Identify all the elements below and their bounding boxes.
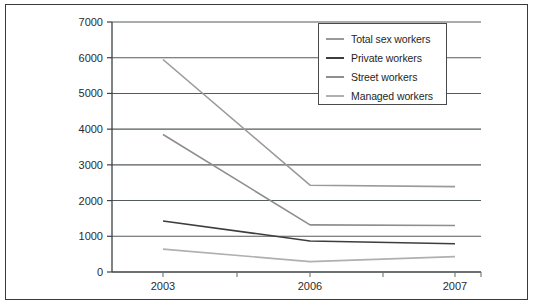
y-tick-group [107, 22, 112, 272]
legend-item-label: Private workers [351, 52, 422, 64]
y-tick-label: 3000 [79, 159, 103, 171]
legend-item[interactable]: Street workers [326, 67, 439, 86]
legend-item-label: Total sex workers [351, 33, 430, 45]
y-axis-labels: 01000200030004000500060007000 [79, 16, 103, 278]
y-tick-label: 1000 [79, 230, 103, 242]
y-tick-label: 5000 [79, 87, 103, 99]
y-tick-label: 0 [97, 266, 103, 278]
legend-item-label: Managed workers [351, 90, 433, 102]
line-chart-svg: 01000200030004000500060007000 2003200620… [0, 0, 533, 305]
y-tick-label: 7000 [79, 16, 103, 28]
x-tick-label: 2003 [151, 280, 175, 292]
series-line [163, 249, 455, 262]
x-axis-labels: 200320062007 [151, 280, 467, 292]
legend-line-icon [326, 38, 344, 40]
chart-figure: 01000200030004000500060007000 2003200620… [0, 0, 533, 305]
x-tick-label: 2006 [298, 280, 322, 292]
chart-legend: Total sex workers Private workers Street… [318, 23, 447, 105]
legend-line-icon [326, 57, 344, 59]
y-tick-label: 6000 [79, 52, 103, 64]
legend-item-label: Street workers [351, 71, 417, 83]
legend-line-icon [326, 76, 344, 78]
plot-area: 01000200030004000500060007000 2003200620… [0, 0, 533, 305]
x-tick-label: 2007 [443, 280, 467, 292]
x-tick-group [163, 272, 481, 277]
legend-item[interactable]: Total sex workers [326, 29, 439, 48]
series-line [163, 135, 455, 226]
y-tick-label: 2000 [79, 195, 103, 207]
legend-line-icon [326, 95, 344, 97]
legend-item[interactable]: Managed workers [326, 86, 439, 105]
legend-item[interactable]: Private workers [326, 48, 439, 67]
y-tick-label: 4000 [79, 123, 103, 135]
